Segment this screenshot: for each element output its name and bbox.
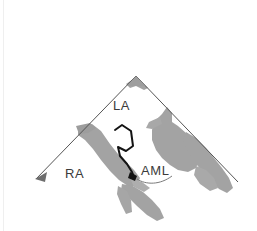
tissue-structures — [76, 77, 233, 221]
sector-apex-marker-icon — [127, 76, 145, 86]
echocardiogram-figure: LA RA AML — [0, 0, 257, 231]
label-left-atrium: LA — [113, 98, 130, 113]
echocardiogram-canvas — [0, 0, 257, 231]
label-anterior-mitral-leaflet: AML — [141, 163, 170, 178]
label-right-atrium: RA — [65, 166, 84, 181]
